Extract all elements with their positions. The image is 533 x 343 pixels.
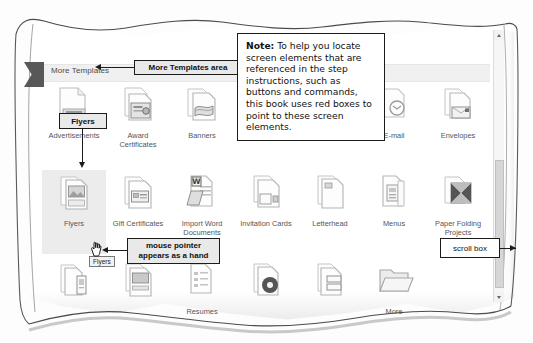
template-item-postcards[interactable] (106, 258, 170, 307)
callout-leader-line (107, 250, 127, 251)
template-item-cd-labels[interactable] (234, 258, 298, 307)
scroll-down-arrow[interactable] (494, 292, 504, 302)
callout-flyers-box: Flyers (59, 113, 107, 129)
callout-leader-line (100, 67, 134, 68)
scroll-up-arrow[interactable] (494, 30, 504, 40)
template-item-label: Banners (170, 131, 234, 140)
import-word-icon: W (170, 170, 234, 217)
postcards-icon (106, 258, 170, 305)
scroll-box-thumb[interactable] (495, 160, 504, 288)
template-item-label: Award Certificates (106, 131, 170, 149)
template-item-label: Invitation Cards (234, 219, 298, 228)
template-item-envelopes[interactable]: Envelopes (426, 82, 490, 140)
award-certificate-icon (106, 82, 170, 129)
template-item-more[interactable]: More (362, 258, 426, 315)
template-item-invitation-cards[interactable]: Invitation Cards (234, 170, 298, 228)
callout-mouse-pointer: mouse pointer appears as a hand (127, 238, 220, 264)
template-item-label: Menus (362, 219, 426, 228)
resume-icon (170, 258, 234, 305)
template-item-label: Advertisements (42, 131, 106, 140)
chevron-down-icon (497, 296, 501, 299)
template-item-import-word-documents[interactable]: W Import Word Documents (170, 170, 234, 237)
gift-certificate-icon (106, 170, 170, 217)
template-item-labels[interactable] (298, 258, 362, 307)
banner-icon (170, 82, 234, 129)
hand-cursor-icon (89, 240, 103, 261)
template-item-label: More (362, 307, 426, 315)
callout-more-templates-area: More Templates area (134, 60, 242, 75)
menu-icon (362, 170, 426, 217)
callout-label: More Templates area (149, 62, 228, 73)
callout-arrowhead-down (79, 162, 85, 168)
cd-label-icon (234, 258, 298, 305)
callout-leader-line-vertical (82, 129, 83, 163)
note-lead-label: Note: (246, 40, 274, 51)
chevron-up-icon (497, 34, 501, 37)
template-item-advertisements[interactable]: Advertisements (42, 82, 106, 140)
template-item-label: Gift Certificates (106, 219, 170, 228)
callout-label: Flyers (71, 116, 95, 127)
template-item-award-certificates[interactable]: Award Certificates (106, 82, 170, 149)
callout-label-line1: mouse pointer appears as a hand (139, 241, 209, 261)
template-item-menus[interactable]: Menus (362, 170, 426, 228)
folder-icon (362, 258, 426, 305)
callout-arrowhead (510, 245, 516, 251)
template-item-label: Resumes (170, 307, 234, 315)
note-callout: Note: To help you locate screen elements… (237, 33, 385, 141)
invitation-card-icon (234, 170, 298, 217)
paper-folding-icon (426, 170, 490, 217)
callout-label: scroll box (453, 243, 487, 254)
template-item-label: Flyers (42, 219, 106, 228)
labels-icon (298, 258, 362, 305)
flyer-icon (42, 170, 106, 217)
callout-scroll-box: scroll box (440, 238, 500, 258)
vertical-scrollbar[interactable] (493, 30, 504, 302)
template-item-gift-certificates[interactable]: Gift Certificates (106, 170, 170, 228)
template-row-2: Flyers Gift Certificates (42, 170, 497, 254)
svg-text:W: W (192, 177, 201, 186)
template-item-resumes[interactable]: Resumes (170, 258, 234, 315)
template-item-letterhead[interactable]: Letterhead (298, 170, 362, 228)
template-item-label: Paper Folding Projects (426, 219, 490, 237)
template-item-label: Import Word Documents (170, 219, 234, 237)
template-item-banners[interactable]: Banners (170, 82, 234, 140)
template-item-label: Envelopes (426, 131, 490, 140)
envelope-icon (426, 82, 490, 129)
letterhead-icon (298, 170, 362, 217)
callout-arrowhead (95, 64, 101, 70)
template-item-paper-folding-projects[interactable]: Paper Folding Projects (426, 170, 490, 237)
template-item-label: Letterhead (298, 219, 362, 228)
note-body: To help you locate screen elements that … (246, 40, 372, 132)
figure-canvas: More Templates Advertisements (0, 0, 533, 343)
